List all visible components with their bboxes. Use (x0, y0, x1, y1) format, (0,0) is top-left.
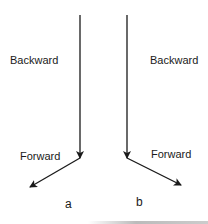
bottom-edge-shadow (88, 221, 208, 224)
panel-a-caption: a (65, 198, 72, 210)
panel-a-forward-label: Forward (20, 151, 60, 162)
arrows-layer (0, 0, 208, 224)
panel-a-forward-arrow (30, 158, 80, 187)
panel-b-forward-label: Forward (151, 149, 191, 160)
diagram-canvas: Backward Forward a Backward Forward b (0, 0, 208, 224)
panel-b-forward-arrow (127, 158, 181, 185)
panel-b-backward-label: Backward (150, 55, 198, 66)
panel-a-backward-label: Backward (10, 55, 58, 66)
panel-b-caption: b (136, 196, 143, 208)
